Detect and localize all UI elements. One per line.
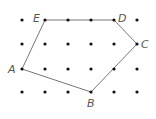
- vertex-labels: A B C D E: [7, 12, 149, 110]
- vertex-label-a: A: [7, 63, 16, 76]
- grid-dot: [112, 67, 115, 70]
- grid-dot: [20, 67, 23, 70]
- grid-dot: [89, 18, 92, 21]
- pentagon-abcde: [22, 20, 137, 92]
- grid-dot: [135, 67, 138, 70]
- grid-dot: [43, 67, 46, 70]
- grid-dot: [66, 67, 69, 70]
- vertex-label-e: E: [33, 12, 40, 25]
- grid-dot: [135, 42, 138, 45]
- vertex-label-c: C: [141, 38, 149, 51]
- vertex-label-b: B: [87, 97, 95, 110]
- grid-dot: [89, 67, 92, 70]
- grid-dot: [112, 18, 115, 21]
- grid-dot: [89, 42, 92, 45]
- grid-dot: [135, 18, 138, 21]
- grid-dot: [66, 18, 69, 21]
- grid-dot: [43, 42, 46, 45]
- grid-dot: [66, 90, 69, 93]
- grid-dot: [135, 90, 138, 93]
- grid-dot: [20, 18, 23, 21]
- vertex-label-d: D: [118, 12, 126, 25]
- pentagon-dot-grid-diagram: A B C D E: [0, 0, 156, 119]
- grid-dot: [66, 42, 69, 45]
- grid-dot: [20, 42, 23, 45]
- grid-dot: [43, 18, 46, 21]
- grid-dot: [20, 90, 23, 93]
- dot-grid: [20, 18, 138, 93]
- grid-dot: [112, 90, 115, 93]
- grid-dot: [89, 90, 92, 93]
- grid-dot: [112, 42, 115, 45]
- grid-dot: [43, 90, 46, 93]
